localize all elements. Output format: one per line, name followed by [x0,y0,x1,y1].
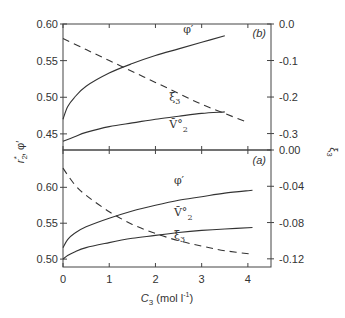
curve-label: ξ3 [174,229,185,244]
curve-label: V̄°2 [173,206,193,222]
figure: 0.600.550.500.450.0-0.1-0.2-0.3φ′ξ3V̄°2(… [0,0,345,318]
series-xi3 [63,39,248,123]
chart-svg: 0.600.550.500.450.0-0.1-0.2-0.3φ′ξ3V̄°2(… [0,0,345,318]
panel-b: 0.600.550.500.450.0-0.1-0.2-0.3φ′ξ3V̄°2(… [37,18,298,150]
panel-label: (a) [253,154,267,166]
y-tick-label-left: 0.55 [37,217,58,229]
x-tick-label: 3 [199,273,205,285]
x-axis-title: C3 (mol l-1) [141,291,193,307]
y-tick-label-right: 0.0 [279,18,294,30]
series-xi3 [63,168,253,254]
y-tick-label-right: -0.08 [279,217,304,229]
panel-label: (b) [253,27,267,39]
curve-label: φ′ [174,174,185,187]
x-tick-label: 1 [106,273,112,285]
y-tick-label-left: 0.60 [37,18,58,30]
y-tick-label-left: 0.50 [37,91,58,103]
series-v2 [63,112,225,141]
plot-frame [63,24,271,150]
right-axis-title: ξ3 [325,147,340,157]
curve-label: ξ3 [169,91,180,106]
x-tick-label: 4 [245,273,251,285]
x-tick-label: 0 [60,273,66,285]
curve-label: V̄°2 [168,118,188,134]
series-v2 [63,228,253,260]
y-tick-label-right: -0.12 [279,253,304,265]
y-tick-label-right: -0.3 [279,128,298,140]
y-tick-label-left: 0.45 [37,128,58,140]
y-tick-label-left: 0.55 [37,55,58,67]
panel-a: 0.600.550.500.00-0.04-0.08-0.12φ′V̄°2ξ3(… [37,144,305,267]
y-tick-label-right: -0.04 [279,180,304,192]
y-tick-label-right: -0.1 [279,55,298,67]
y-tick-label-right: 0.00 [279,144,300,156]
y-tick-label-left: 0.50 [37,253,58,265]
curve-label: φ′ [183,23,194,36]
plot-frame [63,150,271,267]
y-tick-label-right: -0.2 [279,91,298,103]
x-tick-label: 2 [152,273,158,285]
y-tick-label-left: 0.60 [37,181,58,193]
left-axis-title: r2*, φ′ [12,141,29,164]
